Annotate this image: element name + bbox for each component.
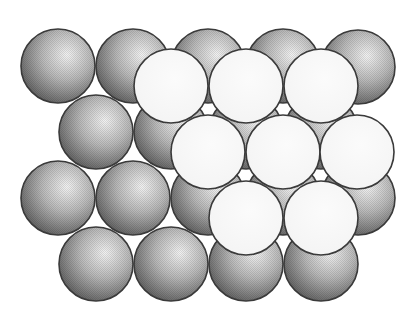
diagram-canvas [0,0,413,321]
lower-layer-sphere [21,29,95,103]
upper-layer-sphere [171,115,245,189]
lower-layer-sphere [134,227,208,301]
upper-layer-sphere [209,181,283,255]
sphere-packing-diagram [0,0,413,321]
lower-layer-sphere [21,161,95,235]
upper-layer-sphere [209,49,283,123]
upper-layer-sphere [284,181,358,255]
lower-layer-sphere [59,227,133,301]
upper-layer-sphere [246,115,320,189]
upper-layer-sphere [134,49,208,123]
upper-layer-spheres [134,49,394,255]
lower-layer-sphere [96,161,170,235]
upper-layer-sphere [284,49,358,123]
lower-layer-sphere [59,95,133,169]
upper-layer-sphere [320,115,394,189]
